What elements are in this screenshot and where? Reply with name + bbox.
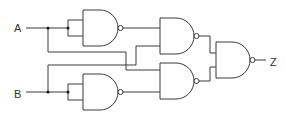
nand-gate-4 [160, 63, 199, 99]
nand-gate-5 [216, 42, 255, 78]
output-label-z: Z [270, 56, 277, 68]
junction-dot [66, 90, 69, 93]
junction-dot [66, 26, 69, 29]
nand-gate-3 [83, 74, 123, 110]
nand-gate-2 [160, 18, 199, 54]
input-label-b: B [14, 88, 21, 100]
junction-dot [46, 90, 49, 93]
wire-gate2-to-gate5 [199, 36, 216, 53]
junction-dot [46, 26, 49, 29]
input-label-a: A [14, 22, 22, 34]
nand-gate-1 [83, 10, 123, 46]
wire-gate4-to-gate5 [199, 67, 216, 81]
logic-circuit-diagram: A B Z [0, 0, 285, 118]
